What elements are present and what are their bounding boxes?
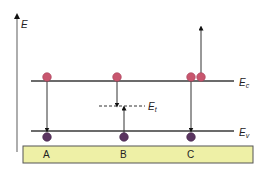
energy-axis-label: E	[21, 19, 28, 30]
electron	[113, 73, 122, 82]
energy-axis: E	[17, 16, 28, 152]
electron	[43, 73, 52, 82]
conduction-band: Ec	[31, 77, 250, 89]
hole	[187, 133, 196, 142]
hole	[43, 133, 52, 142]
trap-level: Et	[99, 101, 158, 113]
electron	[197, 73, 206, 82]
electron	[187, 73, 196, 82]
column-a-label: A	[43, 149, 50, 160]
column-b-label: B	[120, 149, 127, 160]
hole	[120, 133, 129, 142]
trap-level-label: Et	[148, 101, 158, 113]
substrate-bar	[23, 146, 253, 163]
conduction-band-label: Ec	[239, 77, 250, 89]
valence-band-label: Ev	[239, 127, 250, 139]
mechanism-c: C	[187, 28, 206, 160]
column-c-label: C	[187, 149, 194, 160]
band-diagram: E Ec Ev Et A B C	[0, 0, 265, 171]
valence-band: Ev	[31, 127, 250, 139]
